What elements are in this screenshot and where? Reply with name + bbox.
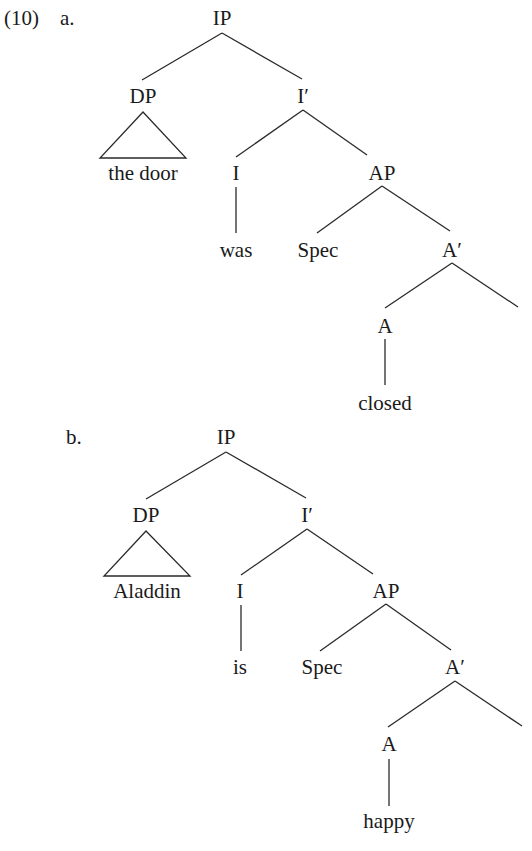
edge-ap-abar xyxy=(382,186,450,231)
edge-ap-spec xyxy=(320,604,386,651)
node-ap: AP xyxy=(373,579,400,603)
syntax-tree-figure: (10) a. IP DP the door I′ I was AP Spec … xyxy=(0,0,532,851)
leaf-subject: the door xyxy=(108,161,177,185)
node-dp: DP xyxy=(133,503,160,527)
node-ap: AP xyxy=(369,161,396,185)
leaf-head-a: closed xyxy=(358,391,412,415)
node-a-bar: A′ xyxy=(445,655,465,679)
node-i-bar: I′ xyxy=(301,503,313,527)
node-spec: Spec xyxy=(302,655,343,679)
leaf-head-i: is xyxy=(233,655,247,679)
node-i: I xyxy=(233,161,240,185)
edge-abar-a xyxy=(385,263,452,308)
edge-abar-empty xyxy=(452,263,518,307)
node-a: A xyxy=(381,732,397,756)
node-ip: IP xyxy=(217,425,236,449)
edge-abar-empty xyxy=(455,681,522,726)
edge-ip-ibar xyxy=(222,33,302,79)
edge-ap-spec xyxy=(317,186,382,233)
tree-a: (10) a. IP DP the door I′ I was AP Spec … xyxy=(4,6,518,415)
edge-ibar-i xyxy=(241,529,307,575)
tree-a-label: a. xyxy=(60,6,75,30)
node-a-bar: A′ xyxy=(442,238,462,262)
node-dp: DP xyxy=(130,84,157,108)
edge-ap-abar xyxy=(386,604,451,650)
tree-b: b. IP DP Aladdin I′ I is AP Spec A′ A ha… xyxy=(66,425,522,833)
dp-triangle xyxy=(100,112,186,158)
edge-abar-a xyxy=(388,681,455,727)
edge-ip-ibar xyxy=(226,452,306,498)
edge-ibar-ap xyxy=(307,529,373,574)
node-spec: Spec xyxy=(298,238,339,262)
example-number: (10) xyxy=(4,6,39,30)
node-a: A xyxy=(377,314,393,338)
node-ip: IP xyxy=(213,6,232,30)
edge-ibar-ap xyxy=(303,110,367,155)
tree-b-label: b. xyxy=(66,425,82,449)
leaf-subject: Aladdin xyxy=(113,579,181,603)
node-i-bar: I′ xyxy=(297,84,309,108)
edge-ibar-i xyxy=(236,110,303,157)
dp-triangle xyxy=(104,531,190,576)
leaf-head-i: was xyxy=(220,238,253,262)
edge-ip-dp xyxy=(146,452,226,499)
leaf-head-a: happy xyxy=(363,809,415,833)
node-i: I xyxy=(237,579,244,603)
edge-ip-dp xyxy=(142,33,222,80)
